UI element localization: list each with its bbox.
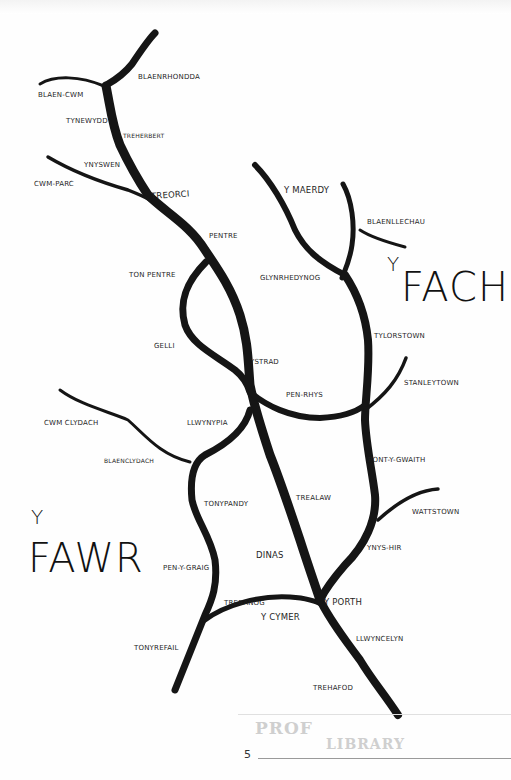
- place-label-pont-y-gwaith: Pont-y-Gwaith: [368, 456, 425, 464]
- river-maerdy-branch: [255, 165, 345, 275]
- page-number: 5: [244, 748, 251, 761]
- river-llwynypia-branch: [175, 410, 250, 690]
- place-label-tonyrefail: Tonyrefail: [134, 644, 179, 652]
- library-stamp-line2: LIBRARY: [326, 736, 405, 752]
- fawr-heading: FAWR: [28, 535, 144, 581]
- place-label-ynyswen: Ynyswen: [84, 161, 120, 169]
- place-label-pentre: Pentre: [209, 232, 238, 240]
- place-label-blaen-cwm: Blaen-Cwm: [38, 91, 84, 99]
- place-label-tylorstown: Tylorstown: [374, 332, 425, 340]
- place-label-glynrhedynog: Glynrhedynog: [260, 274, 320, 282]
- place-label-dinas: Dinas: [256, 550, 284, 560]
- place-label-trehafod: Trehafod: [313, 684, 353, 692]
- place-label-tonypandy: Tonypandy: [204, 500, 248, 508]
- place-label-tynewydd: Tynewydd: [66, 117, 108, 125]
- place-label-treherbert: Treherbert: [123, 132, 164, 139]
- place-label-llwynypia: Llwynypia: [187, 419, 228, 427]
- place-label-blaenllechau: Blaenllechau: [367, 218, 425, 226]
- river-rhondda-fawr: [106, 86, 320, 600]
- place-label-pen-rhys: Pen-Rhys: [286, 391, 323, 399]
- footer-rule: [258, 758, 511, 759]
- place-label-wattstown: Wattstown: [412, 508, 459, 516]
- fawr-y-label: Y: [31, 505, 43, 529]
- library-stamp-line1: PROF: [255, 718, 313, 738]
- place-label-y-maerdy: Y Maerdy: [284, 185, 329, 195]
- place-label-y-cymer: Y Cymer: [261, 612, 300, 622]
- place-label-gelli: Gelli: [154, 342, 175, 350]
- place-label-blaenrhondda: Blaenrhondda: [138, 73, 200, 81]
- place-label-ystrad: Ystrad: [250, 358, 279, 366]
- rhondda-valleys-map: Y FACH Y FAWR Blaenrhondda Blaen-Cwm Tyn…: [0, 0, 511, 780]
- river-blaen-cwm-branch: [40, 78, 104, 86]
- place-label-stanleytown: Stanleytown: [404, 379, 459, 387]
- place-label-llwyncelyn: Llwyncelyn: [356, 635, 403, 643]
- place-label-trealaw: Trealaw: [296, 494, 331, 502]
- place-label-ynys-hir: Ynys-Hir: [367, 544, 402, 552]
- fach-heading: FACH: [401, 264, 509, 310]
- place-label-cwm-clydach: Cwm Clydach: [44, 419, 99, 427]
- river-lower-rhondda: [320, 600, 398, 715]
- river-blaenllechau-stream: [360, 230, 405, 247]
- stamp-rule: [238, 714, 511, 715]
- place-label-ton-pentre: Ton Pentre: [129, 271, 176, 279]
- place-label-cwm-parc: Cwm-Parc: [34, 180, 74, 188]
- place-label-blaenclydach: Blaenclydach: [104, 457, 154, 464]
- place-label-trebanog: Trebanog: [224, 599, 265, 607]
- fach-y-label: Y: [387, 252, 399, 276]
- place-label-y-porth: Y Porth: [324, 597, 362, 607]
- place-label-pen-y-graig: Pen-y-Graig: [163, 564, 209, 572]
- river-blaenllechau-branch: [342, 184, 353, 278]
